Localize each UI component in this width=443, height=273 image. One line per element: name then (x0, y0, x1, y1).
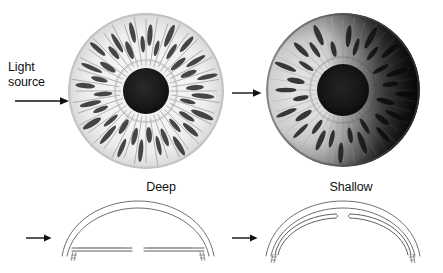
cross-section-shallow (262, 198, 424, 270)
caption-deep: Deep (106, 180, 216, 194)
cross-section-deep (58, 198, 218, 270)
anterior-chamber-depth-figure: Light source (0, 0, 443, 273)
light-source-arrow-icon (14, 95, 70, 107)
iris-photo-shallow (265, 12, 421, 168)
left-section-arrow-icon (26, 232, 52, 244)
iris-photo-deep (67, 12, 225, 170)
cornea-outer (266, 201, 420, 256)
iris-convex-right (350, 214, 411, 255)
right-section-arrow-icon (232, 232, 258, 244)
iris-convex-left (275, 214, 336, 255)
iris-transition-arrow-icon (232, 87, 262, 99)
cornea-inner (67, 208, 209, 256)
caption-shallow: Shallow (296, 180, 406, 194)
